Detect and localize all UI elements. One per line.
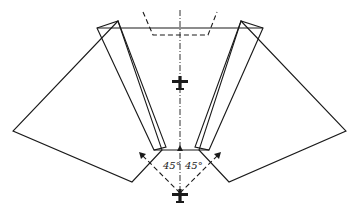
left-angle-label: 45° xyxy=(162,160,181,171)
right-angle-label: 45° xyxy=(184,160,203,171)
aircraft-icon xyxy=(172,76,188,90)
diagram-canvas: 45° 45° xyxy=(0,0,359,215)
field-coverage-diagram: 45° 45° xyxy=(0,0,359,215)
right-field xyxy=(199,21,346,182)
left-field xyxy=(13,21,162,182)
aircraft-icon xyxy=(172,189,188,203)
center-arrowhead xyxy=(177,145,183,151)
